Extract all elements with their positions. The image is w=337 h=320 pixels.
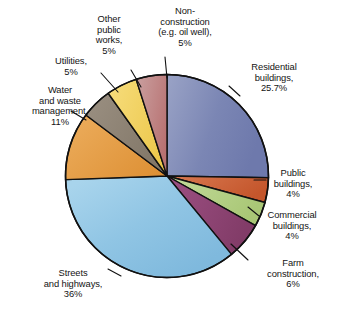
slice-label-residential-buildings: Residential buildings, 25.7%: [226, 62, 322, 94]
slice-label-public-buildings: Public buildings, 4%: [252, 168, 334, 200]
pie-chart-figure: Residential buildings, 25.7% Public buil…: [0, 0, 337, 320]
slice-label-farm-construction: Farm construction, 6%: [250, 258, 336, 290]
slice-label-other-public-works: Other public works, 5%: [78, 14, 140, 56]
slice-label-water-and-waste-management: Water and waste management, 11%: [12, 85, 108, 127]
slice-label-utilities: Utilities, 5%: [36, 56, 106, 77]
slice-label-non-construction: Non- construction (e.g. oil well), 5%: [138, 6, 232, 48]
slice-label-commercial-buildings: Commercial buildings, 4%: [248, 210, 336, 242]
slice-label-streets-and-highways: Streets and highways, 36%: [18, 268, 128, 300]
